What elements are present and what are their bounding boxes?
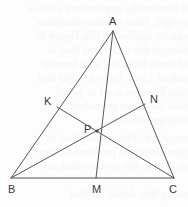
side-AB [11,31,113,178]
triangle-diagram-svg [0,0,188,207]
point-marker-group [95,129,98,132]
vertex-label-A: A [109,16,116,27]
point-label-N: N [150,94,158,105]
geometry-figure: ll-known the appearance cases a e right.… [0,0,188,207]
cevian-AM [96,31,113,178]
point-label-M: M [92,184,101,195]
point-label-K: K [44,96,51,107]
vertex-label-B: B [8,184,15,195]
cevian-BN [11,104,145,178]
point-label-P: P [84,124,91,135]
point-marker-P [95,129,98,132]
vertex-label-C: C [169,184,177,195]
